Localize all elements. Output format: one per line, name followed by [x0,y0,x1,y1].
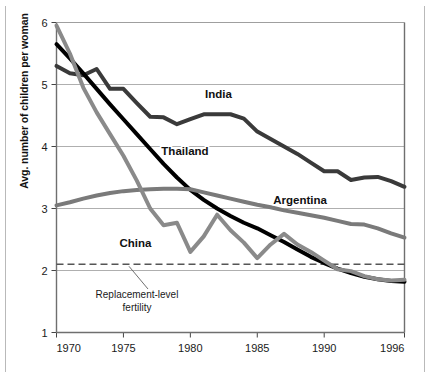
y-tick-label-2: 2 [41,265,47,277]
series-line-china [57,26,405,281]
y-tick-label-6: 6 [41,17,47,29]
x-tick-label-1996: 1996 [380,342,404,354]
series-label-india: India [205,88,232,100]
series-line-thailand [57,44,405,281]
series-label-thailand: Thailand [161,145,208,157]
axes-group [57,23,405,333]
x-tick-label-1975: 1975 [111,342,135,354]
x-tick-label-1980: 1980 [178,342,202,354]
annotation-leader-line [129,266,148,289]
fertility-line-chart: Avg. number of children per woman 123456… [0,0,430,378]
x-tick-label-1970: 1970 [57,342,81,354]
chart-svg: 123456 197019751980198519901996 IndiaInd… [0,0,430,378]
x-tick-label-1985: 1985 [245,342,269,354]
x-ticks-group: 197019751980198519901996 [57,333,405,354]
y-tick-label-1: 1 [41,327,47,339]
x-tick-label-1990: 1990 [312,342,336,354]
y-tick-label-3: 3 [41,203,47,215]
gridlines-group [57,23,405,271]
annotation-text-line-2: fertility [123,302,152,313]
y-ticks-group: 123456 [41,17,56,339]
annotation-text-line-1: Replacement-level [96,289,179,300]
series-label-china: China [119,237,152,249]
y-tick-label-4: 4 [41,141,47,153]
series-label-argentina: Argentina [273,194,327,206]
annotation-group: Replacement-levelfertility [96,266,179,313]
series-group [57,26,405,282]
series-line-india [57,66,405,187]
y-tick-label-5: 5 [41,79,47,91]
